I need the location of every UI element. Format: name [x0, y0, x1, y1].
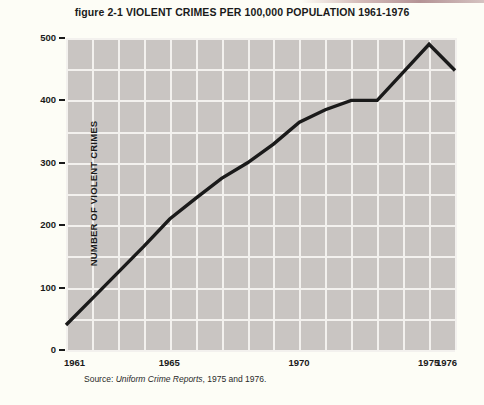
- grid-line-vertical: [455, 38, 457, 350]
- x-tick-label: 1965: [159, 357, 180, 368]
- scan-artifact-edge: [0, 0, 484, 3]
- y-tick-mark: [59, 99, 65, 101]
- source-suffix: , 1975 and 1976.: [203, 374, 267, 384]
- data-series-line: [66, 38, 455, 350]
- y-tick-label: 300: [12, 157, 56, 168]
- source-prefix: Source:: [84, 374, 116, 384]
- source-note: Source: Uniform Crime Reports, 1975 and …: [84, 374, 266, 384]
- y-tick-label: 400: [12, 94, 56, 105]
- y-tick-label: 500: [12, 32, 56, 43]
- figure-page: figure 2-1 VIOLENT CRIMES PER 100,000 PO…: [0, 0, 484, 405]
- y-tick-mark: [59, 162, 65, 164]
- page-title: figure 2-1 VIOLENT CRIMES PER 100,000 PO…: [0, 6, 484, 18]
- source-publication: Uniform Crime Reports: [116, 374, 203, 384]
- y-tick-mark: [59, 287, 65, 289]
- x-tick-label: 1970: [288, 357, 309, 368]
- x-tick-label: 1961: [64, 357, 85, 368]
- y-tick-label: 0: [12, 344, 56, 355]
- y-tick-mark: [59, 349, 65, 351]
- y-axis-title: NUMBER OF VIOLENT CRIMES: [88, 94, 99, 294]
- grid-line-horizontal: [66, 350, 455, 352]
- plot-area: NUMBER OF VIOLENT CRIMES: [66, 38, 455, 350]
- y-tick-mark: [59, 224, 65, 226]
- y-tick-mark: [59, 37, 65, 39]
- y-tick-label: 200: [12, 219, 56, 230]
- y-tick-label: 100: [12, 282, 56, 293]
- violent-crimes-polyline: [66, 44, 455, 325]
- x-tick-label: 1976: [436, 357, 457, 368]
